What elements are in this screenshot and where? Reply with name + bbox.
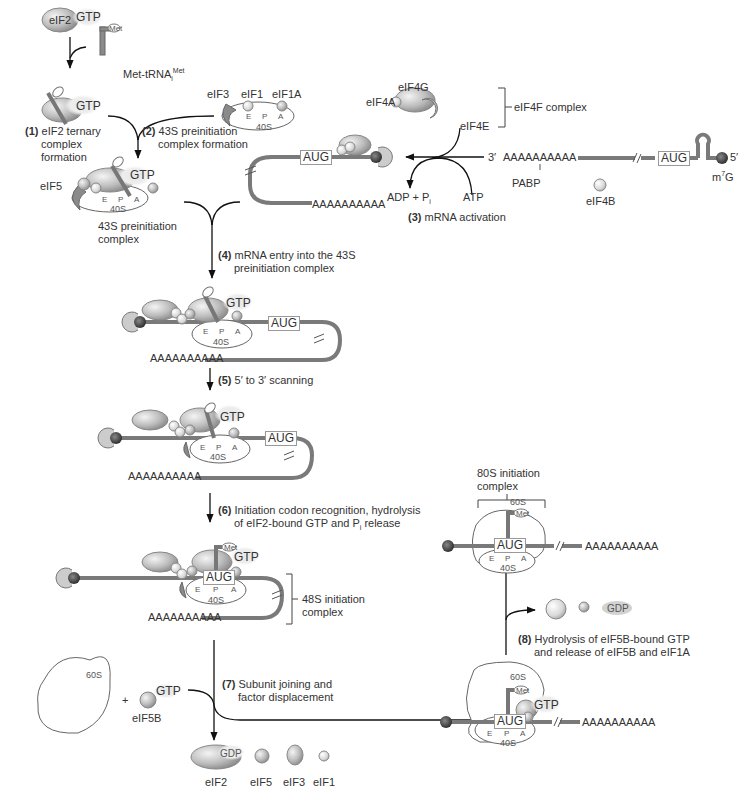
label-5prime: 5′ xyxy=(730,151,738,164)
site-e-5: E xyxy=(195,585,200,594)
aug-scan-2: AUG xyxy=(265,431,297,446)
label-48s-complex: 48S initiationcomplex xyxy=(302,593,365,619)
site-a-4: A xyxy=(232,443,237,452)
site-e-4: E xyxy=(200,443,205,452)
label-plus: + xyxy=(122,694,128,707)
subunit-40s-1: 40S xyxy=(256,122,272,132)
label-met-trna: Met-tRNAiMet xyxy=(123,64,185,85)
label-m7g: m7G xyxy=(712,167,734,184)
step-7-label: (7) Subunit joining and factor displacem… xyxy=(222,678,333,704)
released-eif1a xyxy=(579,602,589,612)
label-atp: ATP xyxy=(463,191,484,204)
step-5-label: (5) 5′ to 3′ scanning xyxy=(218,374,313,387)
step-8-label: (8) Hydrolysis of eIF5B-bound GTP and re… xyxy=(518,633,690,659)
aug-48s: AUG xyxy=(203,570,235,585)
label-gtp-4: GTP xyxy=(226,296,251,310)
released-eif3: eIF3 xyxy=(283,776,305,789)
label-eif4g: eIF4G xyxy=(398,81,429,94)
site-e-7: E xyxy=(489,554,494,563)
subunit-40s-3: 40S xyxy=(213,337,229,347)
label-eif4b: eIF4B xyxy=(586,195,615,208)
label-pabp: PABP xyxy=(512,177,541,190)
released-factors xyxy=(191,744,329,769)
site-p-7: P xyxy=(505,554,510,563)
label-met-80s-b: Met xyxy=(516,686,529,695)
step-4-label: (4) mRNA entry into the 43S preinitiatio… xyxy=(218,249,356,275)
released-eif1: eIF1 xyxy=(313,776,335,789)
subunit-40s-6: 40S xyxy=(500,738,516,748)
poly-a-scan-2: AAAAAAAAAA xyxy=(128,470,201,482)
released-eif5: eIF5 xyxy=(250,776,272,789)
site-p-6: P xyxy=(504,729,509,738)
label-met-1: Met xyxy=(109,24,122,33)
label-gdp-2: GDP xyxy=(607,603,629,614)
poly-a-scan-1: AAAAAAAAAA xyxy=(150,352,223,364)
subunit-40s-7: 40S xyxy=(500,563,516,573)
site-p-5: P xyxy=(213,585,218,594)
poly-a-activated: AAAAAAAAAA xyxy=(312,198,385,210)
label-43s-complex: 43S preinitiationcomplex xyxy=(98,220,177,246)
subunit-40s-2: 40S xyxy=(110,204,126,214)
label-eif4f-complex: eIF4F complex xyxy=(514,101,587,114)
site-p-2: P xyxy=(118,195,123,204)
step-1-label: (1) eIF2 ternary complex formation xyxy=(25,125,101,164)
step-3-label: (3) mRNA activation xyxy=(408,211,506,224)
aug-activated: AUG xyxy=(300,150,332,165)
subunit-60s-label-1: 60S xyxy=(86,670,102,680)
aug-80s-b: AUG xyxy=(494,714,526,729)
site-e-3: E xyxy=(203,327,208,336)
label-80s-complex: 80S initiationcomplex xyxy=(477,467,540,493)
label-eif4a: eIF4A xyxy=(366,96,395,109)
label-gtp-5: GTP xyxy=(220,410,245,424)
released-eif5b xyxy=(546,599,566,619)
label-gtp-7: GTP xyxy=(156,684,181,698)
diagram-canvas xyxy=(0,0,746,800)
site-e-2: E xyxy=(102,195,107,204)
label-eif1a: eIF1A xyxy=(272,88,301,101)
released-eif2: eIF2 xyxy=(205,776,227,789)
step-2-label: (2) 43S preinitiation complex formation xyxy=(142,125,248,151)
label-eif1: eIF1 xyxy=(241,88,263,101)
site-a-6: A xyxy=(520,729,525,738)
label-met-80s: Met xyxy=(516,509,529,518)
poly-a-80s-b: AAAAAAAAAA xyxy=(582,716,655,728)
subunit-60s-label-2: 60S xyxy=(510,672,526,682)
label-eif5: eIF5 xyxy=(40,180,62,193)
label-gtp-1: GTP xyxy=(76,10,101,24)
site-a-3: A xyxy=(235,327,240,336)
label-3prime-1: 3′ xyxy=(488,151,496,164)
site-a-2: A xyxy=(134,195,139,204)
site-a-5: A xyxy=(231,585,236,594)
poly-a-80s: AAAAAAAAAA xyxy=(585,540,658,552)
site-e-1: E xyxy=(246,112,251,121)
site-p-3: P xyxy=(219,327,224,336)
site-p-1: P xyxy=(262,112,267,121)
aug-80s: AUG xyxy=(494,538,526,553)
poly-a-48s: AAAAAAAAAA xyxy=(148,611,221,623)
site-a-7: A xyxy=(521,554,526,563)
label-gdp-1: GDP xyxy=(220,748,242,759)
aug-free: AUG xyxy=(658,151,690,166)
label-gtp-2: GTP xyxy=(76,99,101,113)
poly-a-free: AAAAAAAAAA xyxy=(503,151,576,163)
label-gtp-3: GTP xyxy=(130,168,155,182)
label-adp-pi: ADP + Pi xyxy=(387,191,431,208)
aug-scan-1: AUG xyxy=(268,316,300,331)
label-eif3: eIF3 xyxy=(207,88,229,101)
site-p-4: P xyxy=(216,443,221,452)
label-eif2: eIF2 xyxy=(49,14,71,27)
label-gtp-6: GTP xyxy=(234,550,259,564)
site-a-1: A xyxy=(278,112,283,121)
label-eif4e: eIF4E xyxy=(460,120,489,133)
subunit-40s-4: 40S xyxy=(210,452,226,462)
subunit-40s-5: 40S xyxy=(208,595,224,605)
site-e-6: E xyxy=(487,729,492,738)
step-6-label: (6) Initiation codon recognition, hydrol… xyxy=(218,504,420,534)
activated-mrna xyxy=(245,135,392,203)
subunit-60s-label-3: 60S xyxy=(510,497,526,507)
label-gtp-8: GTP xyxy=(534,698,559,712)
label-eif5b: eIF5B xyxy=(132,712,161,725)
subunit-60s-free xyxy=(38,657,111,733)
